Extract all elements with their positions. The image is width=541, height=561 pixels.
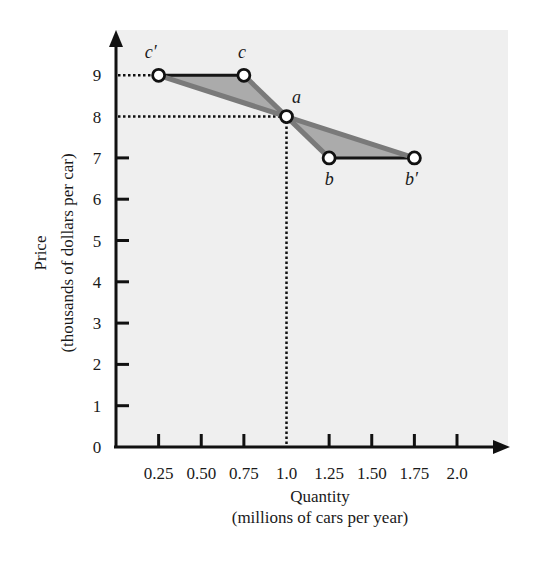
- point-label: c: [238, 42, 246, 62]
- data-point-marker: [281, 111, 293, 123]
- x-tick-label: 1.75: [400, 464, 430, 483]
- x-tick-label: 1.25: [314, 464, 344, 483]
- data-point-marker: [238, 69, 250, 81]
- y-tick-label: 5: [93, 232, 102, 251]
- x-tick-label: 0.75: [229, 464, 259, 483]
- y-tick-label: 6: [93, 190, 102, 209]
- point-label: c′: [145, 42, 158, 62]
- plot-panel: [116, 30, 508, 447]
- x-tick-label: 2.0: [446, 464, 467, 483]
- data-point-marker: [408, 152, 420, 164]
- y-axis-title: Price: [31, 236, 50, 271]
- data-point-marker: [153, 69, 165, 81]
- chart-canvas: 0.250.500.751.01.251.501.752.0 012345678…: [0, 0, 541, 561]
- point-label: b′: [405, 169, 419, 189]
- y-tick-label: 0: [93, 438, 102, 457]
- y-tick-label: 1: [93, 397, 102, 416]
- point-label: a: [292, 87, 301, 107]
- x-tick-label: 1.0: [276, 464, 297, 483]
- data-point-marker: [323, 152, 335, 164]
- x-axis-subtitle: (millions of cars per year): [232, 508, 409, 527]
- x-tick-label: 0.50: [186, 464, 216, 483]
- y-tick-label: 4: [93, 273, 102, 292]
- x-tick-label: 1.50: [357, 464, 387, 483]
- y-tick-label: 2: [93, 355, 102, 374]
- x-tick-label: 0.25: [144, 464, 174, 483]
- point-label: b: [325, 169, 334, 189]
- y-axis-subtitle: (thousands of dollars per car): [58, 153, 77, 352]
- y-tick-label: 8: [93, 108, 102, 127]
- y-tick-label: 9: [93, 66, 102, 85]
- y-tick-label: 7: [93, 149, 102, 168]
- x-axis-title: Quantity: [290, 487, 350, 506]
- y-tick-label: 3: [93, 314, 102, 333]
